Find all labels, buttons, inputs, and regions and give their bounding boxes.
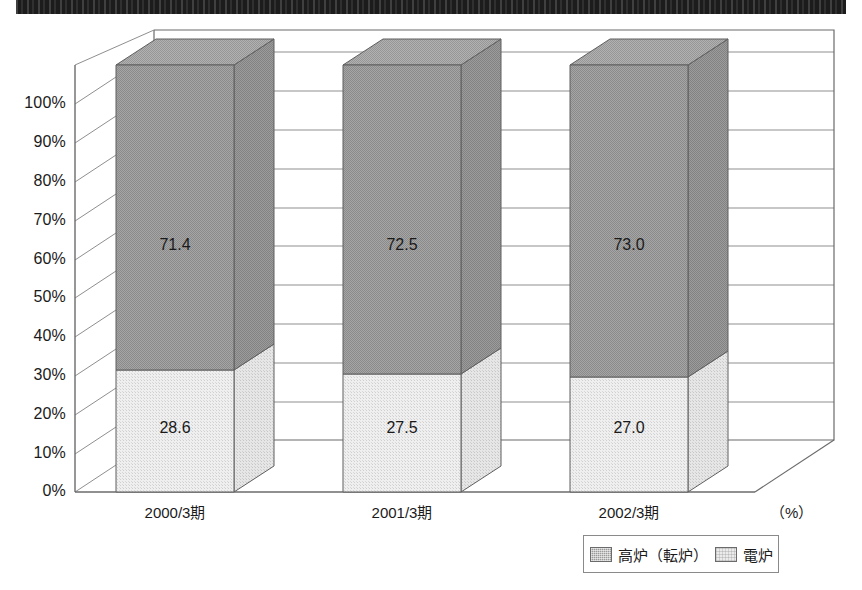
- axis-unit-label: （%）: [770, 501, 813, 522]
- y-tick-label-70: 70%: [0, 211, 66, 229]
- y-tick-label-80: 80%: [0, 172, 66, 190]
- y-tick-label-100: 100%: [0, 94, 66, 112]
- floor-right-edge: [755, 440, 834, 492]
- scan-header-band: [16, 0, 846, 14]
- bar-value-2000-blast: 71.4: [115, 236, 235, 254]
- y-tick-label-30: 30%: [0, 366, 66, 384]
- legend-entry-blast-furnace[interactable]: 高炉（転炉）: [590, 544, 708, 565]
- legend-label-blast-furnace: 高炉（転炉）: [618, 544, 708, 565]
- chart-figure: 100% 90% 80% 70% 60% 50% 40% 30% 20% 10%…: [0, 14, 862, 590]
- legend-label-electric-furnace: 電炉: [743, 544, 773, 565]
- bar-value-2000-electric: 28.6: [115, 419, 235, 437]
- x-tick-label-2001: 2001/3期: [307, 501, 497, 522]
- bar-value-2002-blast: 73.0: [569, 236, 689, 254]
- y-tick-label-10: 10%: [0, 444, 66, 462]
- y-tick-label-90: 90%: [0, 133, 66, 151]
- bar-value-2001-electric: 27.5: [342, 419, 462, 437]
- legend-swatch-dark-icon: [590, 547, 612, 562]
- y-tick-label-60: 60%: [0, 250, 66, 268]
- x-tick-label-2002: 2002/3期: [534, 501, 724, 522]
- y-tick-label-50: 50%: [0, 288, 66, 306]
- legend-entry-electric-furnace[interactable]: 電炉: [715, 544, 773, 565]
- x-tick-label-2000: 2000/3期: [80, 501, 270, 522]
- y-tick-label-40: 40%: [0, 327, 66, 345]
- y-tick-label-20: 20%: [0, 405, 66, 423]
- bar-value-2002-electric: 27.0: [569, 419, 689, 437]
- bar-value-2001-blast: 72.5: [342, 236, 462, 254]
- chart-legend: 高炉（転炉） 電炉: [583, 535, 779, 573]
- legend-swatch-light-icon: [715, 547, 737, 562]
- y-tick-label-0: 0%: [0, 482, 66, 500]
